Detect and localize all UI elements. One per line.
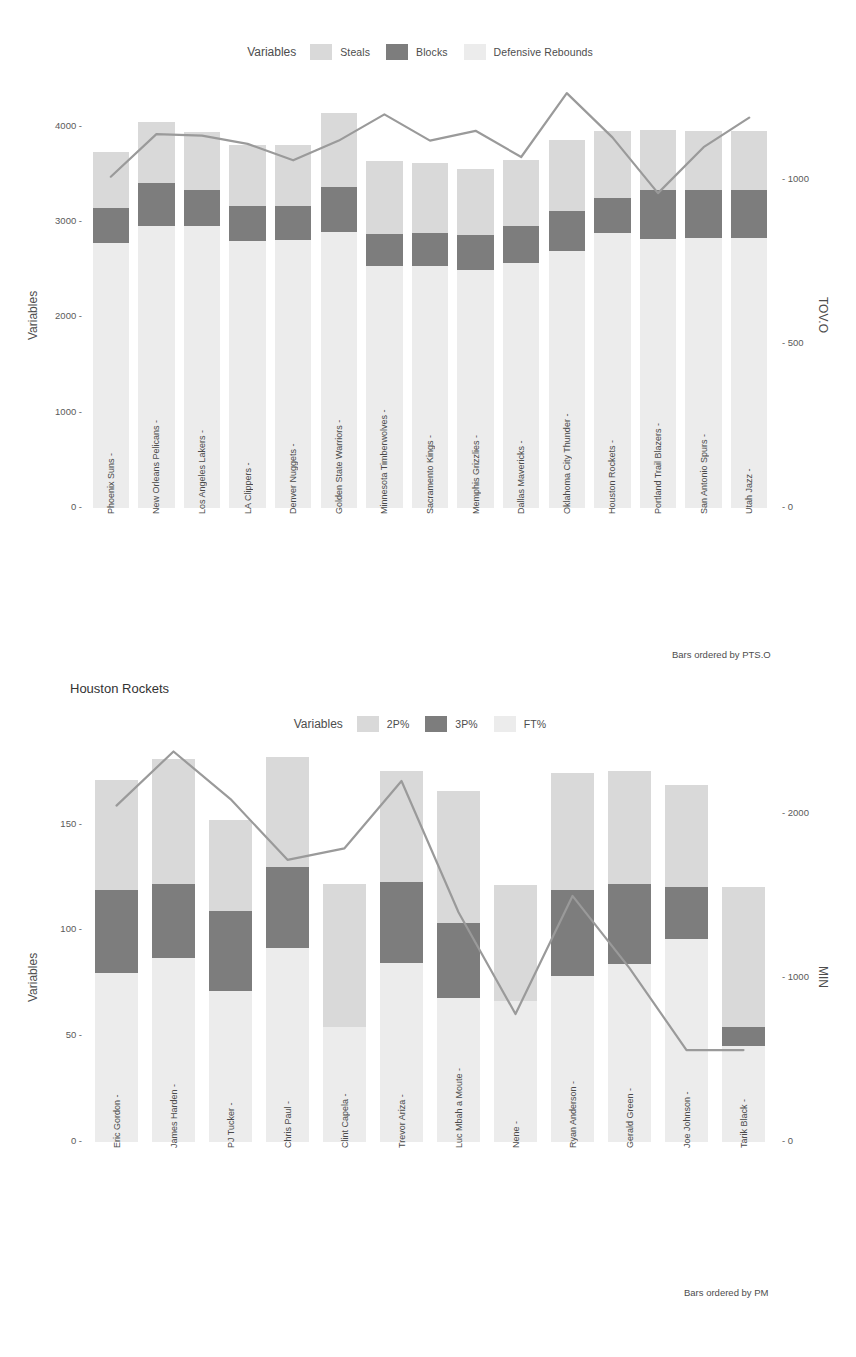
bar-segment[interactable] xyxy=(209,911,252,990)
bar-segment[interactable] xyxy=(184,190,220,225)
bar-stack[interactable] xyxy=(608,740,651,1142)
bar-stack[interactable] xyxy=(380,740,423,1142)
bar-stack[interactable] xyxy=(209,740,252,1142)
y-tick-label-right: - 1000 xyxy=(782,173,809,184)
x-tick-label: Oklahoma City Thunder - xyxy=(562,414,572,514)
x-tick-label: Clint Capela - xyxy=(340,1093,350,1148)
y-tick-label-left: 3000 - xyxy=(36,215,82,226)
bar-segment[interactable] xyxy=(323,884,366,1027)
bar-segment[interactable] xyxy=(731,131,767,190)
x-tick-label: Eric Gordon - xyxy=(112,1094,122,1148)
bar-stack[interactable] xyxy=(665,740,708,1142)
y-tick-label-left: 0 - xyxy=(36,1135,82,1146)
bar-segment[interactable] xyxy=(266,757,309,867)
bar-segment[interactable] xyxy=(275,145,311,206)
y-tick-label-right: - 0 xyxy=(782,1135,793,1146)
bar-segment[interactable] xyxy=(229,145,265,206)
bar-segment[interactable] xyxy=(321,113,357,186)
bar-stack[interactable] xyxy=(152,740,195,1142)
bar-segment[interactable] xyxy=(594,131,630,198)
bar-segment[interactable] xyxy=(457,235,493,269)
chart-panel-league: Variables Steals Blocks Defensive Reboun… xyxy=(0,0,856,672)
x-tick-label: Minnesota Timberwolves - xyxy=(379,409,389,514)
x-tick-label: Nene - xyxy=(511,1121,521,1148)
y-tick-label-left: 1000 - xyxy=(36,406,82,417)
bar-segment[interactable] xyxy=(549,211,585,251)
caption-league: Bars ordered by PTS.O xyxy=(672,649,771,660)
bar-segment[interactable] xyxy=(608,884,651,964)
bar-segment[interactable] xyxy=(457,169,493,236)
bar-segment[interactable] xyxy=(503,160,539,226)
bar-stack[interactable] xyxy=(229,98,265,508)
x-tick-label: Utah Jazz - xyxy=(744,468,754,514)
bar-segment[interactable] xyxy=(594,198,630,233)
bar-segment[interactable] xyxy=(437,791,480,923)
bar-segment[interactable] xyxy=(138,122,174,183)
bar-segment[interactable] xyxy=(412,233,448,265)
bar-segment[interactable] xyxy=(640,190,676,240)
bar-stack[interactable] xyxy=(93,98,129,508)
bar-segment[interactable] xyxy=(665,887,708,939)
x-tick-label: Joe Johnson - xyxy=(682,1091,692,1148)
bar-segment[interactable] xyxy=(551,773,594,890)
y-tick-label-left: 2000 - xyxy=(36,310,82,321)
bar-stack[interactable] xyxy=(95,740,138,1142)
caption-rockets: Bars ordered by PM xyxy=(684,1287,768,1298)
bar-segment[interactable] xyxy=(608,771,651,884)
bar-stack[interactable] xyxy=(731,98,767,508)
y-tick-label-left: 0 - xyxy=(36,501,82,512)
bar-stack[interactable] xyxy=(722,740,765,1142)
y-tick-label-left: 4000 - xyxy=(36,120,82,131)
bar-segment[interactable] xyxy=(380,771,423,882)
x-tick-label: Sacramento Kings - xyxy=(425,435,435,514)
bar-segment[interactable] xyxy=(549,140,585,211)
y-tick-label-left: 150 - xyxy=(36,818,82,829)
bar-segment[interactable] xyxy=(209,820,252,911)
bar-segment[interactable] xyxy=(551,890,594,976)
x-tick-label: Tarik Black - xyxy=(739,1099,749,1148)
bar-segment[interactable] xyxy=(95,890,138,973)
bar-segment[interactable] xyxy=(184,132,220,190)
x-tick-label: Gerald Green - xyxy=(625,1088,635,1148)
bar-segment[interactable] xyxy=(412,163,448,234)
bar-stack[interactable] xyxy=(323,740,366,1142)
plot-area-league: 0 -1000 -2000 -3000 -4000 -- 0- 500- 100… xyxy=(0,0,856,672)
bar-segment[interactable] xyxy=(685,131,721,190)
x-tick-label: Phoenix Suns - xyxy=(106,453,116,514)
x-tick-label: Trevor Ariza - xyxy=(397,1094,407,1148)
x-tick-label: Houston Rockets - xyxy=(607,440,617,514)
chart-panel-rockets: Houston Rockets Variables 2P% 3P% FT% Va… xyxy=(0,672,856,1357)
bar-segment[interactable] xyxy=(138,183,174,226)
bar-segment[interactable] xyxy=(366,234,402,265)
bar-segment[interactable] xyxy=(93,152,129,207)
bar-segment[interactable] xyxy=(366,161,402,234)
y-tick-label-right: - 0 xyxy=(782,501,793,512)
bar-segment[interactable] xyxy=(266,867,309,948)
bar-segment[interactable] xyxy=(640,130,676,189)
bar-segment[interactable] xyxy=(380,882,423,963)
bar-segment[interactable] xyxy=(503,226,539,263)
x-tick-label: Luc Mbah a Moute - xyxy=(454,1068,464,1148)
x-tick-label: Memphis Grizzlies - xyxy=(471,435,481,514)
bar-segment[interactable] xyxy=(152,884,195,958)
y-tick-label-left: 50 - xyxy=(36,1029,82,1040)
bar-segment[interactable] xyxy=(722,887,765,1027)
bar-segment[interactable] xyxy=(731,190,767,238)
page-footer-artifact xyxy=(0,1336,856,1357)
bar-segment[interactable] xyxy=(321,187,357,233)
bar-segment[interactable] xyxy=(685,190,721,238)
bar-segment[interactable] xyxy=(665,785,708,887)
bar-stack[interactable] xyxy=(494,740,537,1142)
bar-segment[interactable] xyxy=(95,780,138,890)
bar-segment[interactable] xyxy=(152,759,195,884)
bar-segment[interactable] xyxy=(275,206,311,240)
bar-stack[interactable] xyxy=(266,740,309,1142)
x-tick-label: San Antonio Spurs - xyxy=(699,434,709,514)
x-tick-label: Denver Nuggets - xyxy=(288,443,298,514)
bar-segment[interactable] xyxy=(437,923,480,998)
bar-segment[interactable] xyxy=(229,206,265,241)
bar-segment[interactable] xyxy=(494,885,537,1001)
y-tick-label-right: - 2000 xyxy=(782,807,809,818)
bar-segment[interactable] xyxy=(722,1027,765,1046)
bar-segment[interactable] xyxy=(93,208,129,243)
